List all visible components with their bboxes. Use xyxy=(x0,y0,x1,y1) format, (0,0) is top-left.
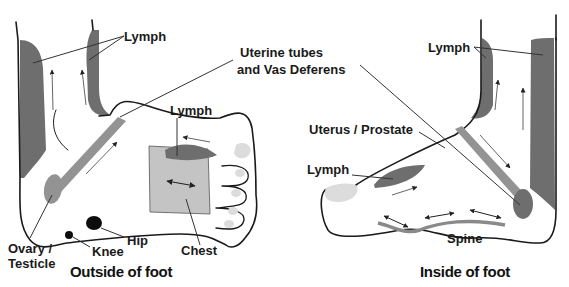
big-toe-pad-inside xyxy=(325,184,358,202)
label-hip: Hip xyxy=(127,233,148,248)
label-uterine-tubes-2: and Vas Deferens xyxy=(237,62,345,77)
flow-arrow xyxy=(52,70,53,110)
lymph-top-inside xyxy=(374,165,425,188)
lymph-band-inner-right xyxy=(471,38,493,118)
leg-line-right xyxy=(92,20,93,30)
flow-arrow xyxy=(392,187,417,195)
label-lymph-top-inside: Lymph xyxy=(307,162,349,177)
flow-arrow xyxy=(183,137,210,142)
label-chest: Chest xyxy=(181,243,218,258)
label-lymph-top-outside: Lymph xyxy=(170,103,212,118)
flow-arrow xyxy=(495,80,498,110)
outside-foot: Lymph Lymph Ovary / Testicle Knee Hip Ch… xyxy=(8,20,257,280)
spine-double-arrow xyxy=(425,213,454,218)
toe-pad-2 xyxy=(235,169,245,177)
toe-pad-4 xyxy=(228,207,238,215)
toe-pad-3 xyxy=(231,189,241,197)
leader-ovary xyxy=(30,195,52,238)
label-spine: Spine xyxy=(447,231,482,246)
label-lymph-ankle-outside: Lymph xyxy=(124,29,166,44)
spine-double-arrow xyxy=(470,210,501,218)
lymph-top-outside xyxy=(165,145,217,161)
lymph-band-outer-right xyxy=(530,38,555,210)
foot-reflexology-diagram: Lymph Lymph Ovary / Testicle Knee Hip Ch… xyxy=(0,0,569,287)
label-uterus: Uterus / Prostate xyxy=(309,122,413,137)
outside-foot-outline xyxy=(16,22,257,247)
uterine-tube-band-left xyxy=(54,117,126,192)
flow-arrow xyxy=(82,70,86,105)
label-uterine-tubes-1: Uterine tubes xyxy=(240,45,323,60)
knee-reflex xyxy=(65,231,73,239)
spine-reflex xyxy=(378,221,505,231)
uterus-reflex xyxy=(513,189,533,219)
label-ovary-2: Testicle xyxy=(8,256,55,271)
ovary-reflex xyxy=(42,173,65,206)
hip-reflex xyxy=(86,216,102,230)
title-outside-foot: Outside of foot xyxy=(70,263,172,280)
big-toe-pad xyxy=(234,143,251,158)
title-inside-foot: Inside of foot xyxy=(420,263,510,280)
label-ovary-1: Ovary / xyxy=(8,241,52,256)
inside-foot: Lymph Uterus / Prostate Lymph Spine Insi… xyxy=(307,15,556,280)
leader-hip xyxy=(101,228,124,237)
toe-pad-5 xyxy=(224,220,234,228)
lymph-band-inner-left xyxy=(87,30,110,115)
label-lymph-ankle-inside: Lymph xyxy=(428,40,470,55)
label-knee: Knee xyxy=(92,244,124,259)
leader-lymph xyxy=(33,36,124,63)
heel-curve xyxy=(53,110,68,150)
